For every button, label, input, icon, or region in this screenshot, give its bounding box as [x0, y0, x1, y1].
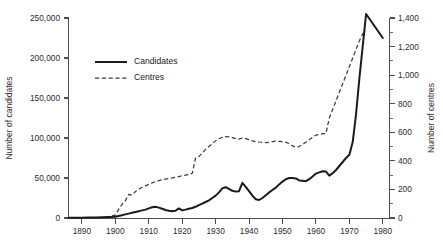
right-tick-label: 1,200: [398, 42, 419, 52]
chart-container: 050,000100,000150,000200,000250,000 Numb…: [0, 0, 443, 248]
bottom-tick-label: 1930: [206, 226, 225, 236]
bottom-tick-label: 1900: [106, 226, 125, 236]
bottom-tick-label: 1920: [173, 226, 192, 236]
left-tick-label: 150,000: [30, 93, 60, 103]
right-tick-label: 1,400: [398, 13, 419, 23]
right-tick-label: 600: [398, 127, 412, 137]
series-line-candidates: [69, 14, 383, 218]
bottom-axis-ticks: [82, 219, 383, 224]
bottom-tick-label: 1970: [340, 226, 359, 236]
legend-item: Centres: [95, 72, 164, 82]
bottom-tick-label: 1980: [374, 226, 393, 236]
legend-item: Candidates: [95, 56, 177, 66]
bottom-tick-label: 1910: [140, 226, 159, 236]
bottom-tick-label: 1940: [240, 226, 259, 236]
right-axis-tick-labels: 02004006008001,0001,2001,400: [398, 13, 419, 223]
left-axis-ticks: [64, 18, 69, 218]
right-tick-label: 200: [398, 184, 412, 194]
right-tick-label: 400: [398, 156, 412, 166]
plot-series-group: [69, 14, 383, 218]
right-axis-title: Number of centres: [426, 83, 436, 153]
right-tick-label: 1,000: [398, 70, 419, 80]
bottom-tick-label: 1960: [307, 226, 326, 236]
left-tick-label: 50,000: [35, 173, 61, 183]
left-tick-label: 100,000: [30, 133, 60, 143]
right-tick-label: 0: [398, 213, 403, 223]
right-axis-group: 02004006008001,0001,2001,400 Number of c…: [390, 13, 437, 223]
left-tick-label: 200,000: [30, 53, 60, 63]
legend-label: Candidates: [134, 56, 177, 66]
legend-label: Centres: [134, 72, 164, 82]
bottom-axis-tick-labels: 1890190019101920193019401950196019701980: [73, 226, 393, 236]
right-tick-label: 800: [398, 99, 412, 109]
bottom-tick-label: 1950: [273, 226, 292, 236]
left-tick-label: 250,000: [30, 13, 60, 23]
left-axis-tick-labels: 050,000100,000150,000200,000250,000: [30, 13, 60, 223]
bottom-tick-label: 1890: [73, 226, 92, 236]
bottom-axis-group: 1890190019101920193019401950196019701980: [69, 219, 393, 237]
left-axis-group: 050,000100,000150,000200,000250,000 Numb…: [4, 13, 69, 223]
line-chart: 050,000100,000150,000200,000250,000 Numb…: [0, 0, 443, 248]
left-axis-title: Number of candidates: [4, 76, 14, 159]
left-tick-label: 0: [55, 213, 60, 223]
chart-legend: CandidatesCentres: [95, 56, 177, 82]
